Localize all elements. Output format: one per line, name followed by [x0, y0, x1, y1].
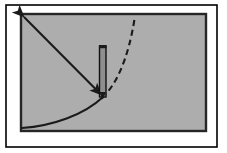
gray-panel	[21, 14, 206, 131]
vertical-rod	[100, 46, 107, 97]
rod-top-cap	[99, 45, 107, 48]
figure-root: Mechanics diagram: pendulum rod with for…	[0, 0, 227, 153]
diagram-canvas: Mechanics diagram: pendulum rod with for…	[0, 0, 227, 153]
